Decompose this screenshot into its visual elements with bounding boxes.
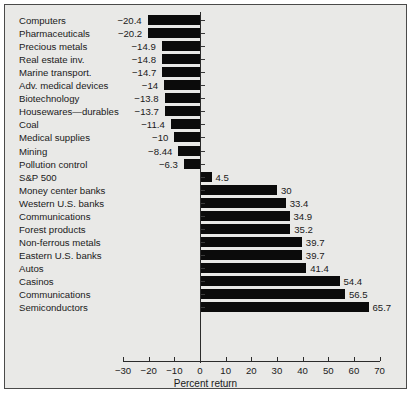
x-axis-tick-label: −10 [166, 365, 182, 376]
bar-value-label: 30 [281, 184, 292, 197]
row-axis-tick [201, 203, 205, 204]
bar-category-label: Forest products [19, 223, 86, 236]
bar-row: Biotechnology−13.8 [5, 92, 406, 105]
bar-value-label: −20.4 [117, 14, 141, 27]
bar [148, 28, 200, 38]
row-axis-tick [201, 216, 205, 217]
x-axis-tick [251, 357, 252, 361]
x-axis-tick-label: 20 [246, 365, 257, 376]
bar-row: Casinos54.4 [5, 275, 406, 288]
row-axis-tick [201, 111, 205, 112]
row-axis-tick [201, 307, 205, 308]
row-axis-tick [201, 229, 205, 230]
plot-frame: Computers−20.4Pharmaceuticals−20.2Precio… [4, 4, 407, 389]
bar [200, 276, 340, 286]
bar-value-label: 39.7 [306, 236, 325, 249]
bar [200, 263, 306, 273]
bar [174, 132, 200, 142]
bar-value-label: 4.5 [216, 171, 229, 184]
row-axis-tick [201, 281, 205, 282]
figure: Computers−20.4Pharmaceuticals−20.2Precio… [0, 0, 411, 414]
bar-row: Pollution control−6.3 [5, 158, 406, 171]
bar-value-label: −13.7 [135, 105, 159, 118]
x-axis-tick [328, 357, 329, 361]
bar-value-label: 33.4 [290, 197, 309, 210]
bar-row: Coal−11.4 [5, 118, 406, 131]
row-axis-tick [201, 59, 205, 60]
bar-row: Non-ferrous metals39.7 [5, 236, 406, 249]
x-axis-tick [149, 357, 150, 361]
bar-value-label: 65.7 [373, 301, 392, 314]
row-axis-tick [201, 190, 205, 191]
bar-category-label: Medical supplies [19, 131, 90, 144]
bar-category-label: Adv. medical devices [19, 79, 108, 92]
bar [200, 302, 369, 312]
zero-axis-line [200, 12, 201, 363]
bar [200, 237, 302, 247]
bar-category-label: S&P 500 [19, 171, 57, 184]
bar-value-label: −14.7 [132, 66, 156, 79]
x-axis-tick [277, 357, 278, 361]
bar-category-label: Western U.S. banks [19, 197, 104, 210]
row-axis-tick [201, 46, 205, 47]
bar-category-label: Money center banks [19, 184, 105, 197]
bar-row: Housewares—durables−13.7 [5, 105, 406, 118]
bar-value-label: 34.9 [294, 210, 313, 223]
bar [148, 15, 200, 25]
x-axis-tick-label: 40 [297, 365, 308, 376]
x-axis-title: Percent return [5, 378, 406, 389]
bar-row: Money center banks30 [5, 184, 406, 197]
bar-value-label: −14 [142, 79, 158, 92]
bar-row: Medical supplies−10 [5, 131, 406, 144]
x-axis-tick [354, 357, 355, 361]
bar [200, 224, 290, 234]
bar-value-label: −11.4 [141, 118, 165, 131]
bar [162, 67, 200, 77]
x-axis-tick-label: 10 [220, 365, 231, 376]
row-axis-tick [201, 137, 205, 138]
x-axis-tick-label: 30 [272, 365, 283, 376]
bar-category-label: Eastern U.S. banks [19, 249, 102, 262]
bar [162, 41, 200, 51]
bar [178, 146, 200, 156]
row-axis-tick [201, 177, 205, 178]
bar-value-label: −13.8 [134, 92, 158, 105]
bar-category-label: Real estate inv. [19, 53, 84, 66]
bar-row: Real estate inv.−14.8 [5, 53, 406, 66]
bar-category-label: Semiconductors [19, 301, 88, 314]
x-axis-tick-label: 60 [349, 365, 360, 376]
bar [171, 119, 200, 129]
bar-row: Autos41.4 [5, 262, 406, 275]
row-axis-tick [201, 72, 205, 73]
bar-value-label: −10 [152, 131, 168, 144]
x-axis-tick [200, 357, 201, 361]
row-axis-tick [201, 255, 205, 256]
bar [200, 289, 345, 299]
bar-row: Semiconductors65.7 [5, 301, 406, 314]
bar-row: Mining−8.44 [5, 145, 406, 158]
bar-value-label: −6.3 [159, 158, 178, 171]
bar-category-label: Computers [19, 14, 66, 27]
bar-category-label: Autos [19, 262, 44, 275]
row-axis-tick [201, 20, 205, 21]
bar-category-label: Communications [19, 210, 90, 223]
bar-value-label: 54.4 [344, 275, 363, 288]
bar-category-label: Precious metals [19, 40, 87, 53]
bar-row: Marine transport.−14.7 [5, 66, 406, 79]
bar [184, 159, 200, 169]
x-axis-tick-label: −30 [115, 365, 131, 376]
x-axis-line [123, 361, 380, 362]
bar-category-label: Mining [19, 145, 47, 158]
bar [200, 198, 286, 208]
bar-row: Western U.S. banks33.4 [5, 197, 406, 210]
x-axis-tick [380, 357, 381, 361]
x-axis-tick-label: 50 [323, 365, 334, 376]
bar-value-label: 39.7 [306, 249, 325, 262]
bar-row: S&P 5004.5 [5, 171, 406, 184]
bar-value-label: 41.4 [310, 262, 329, 275]
bar-category-label: Biotechnology [19, 92, 79, 105]
bar-row: Pharmaceuticals−20.2 [5, 27, 406, 40]
x-axis-tick [226, 357, 227, 361]
bar-row: Communications56.5 [5, 288, 406, 301]
x-axis-tick-label: 0 [197, 365, 202, 376]
